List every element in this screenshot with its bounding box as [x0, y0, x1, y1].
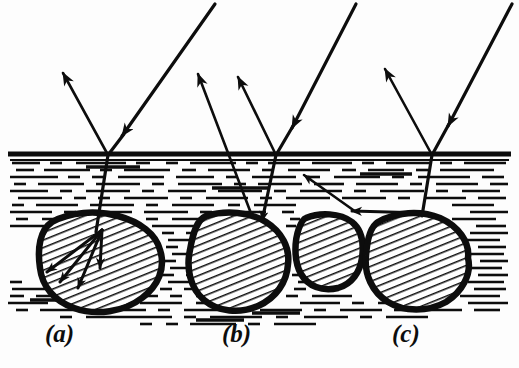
scatter-arrow-a4 [100, 230, 102, 268]
reflected-ray-c [385, 69, 432, 155]
upward-ray-c [304, 175, 356, 212]
reflected-ray-a [63, 73, 108, 155]
panel-label-a: (a) [45, 320, 74, 348]
panel-label-c: (c) [392, 320, 420, 348]
rock-b [189, 213, 289, 311]
rock-c2 [366, 213, 469, 309]
exit-ray-b [198, 74, 252, 216]
incident-ray-c [448, 4, 512, 126]
reflected-ray-b [238, 77, 276, 155]
incident-ray-b-tail [276, 126, 293, 155]
panel-label-b: (b) [222, 320, 251, 348]
scattering-diagram-svg [0, 0, 519, 368]
rock-c1 [295, 214, 362, 289]
incident-ray-c-tail [432, 124, 449, 155]
figure-canvas: (a) (b) (c) [0, 0, 519, 368]
inter-rock-ray-c [352, 211, 424, 213]
incident-ray-a [122, 4, 215, 136]
incident-ray-b [292, 4, 356, 128]
